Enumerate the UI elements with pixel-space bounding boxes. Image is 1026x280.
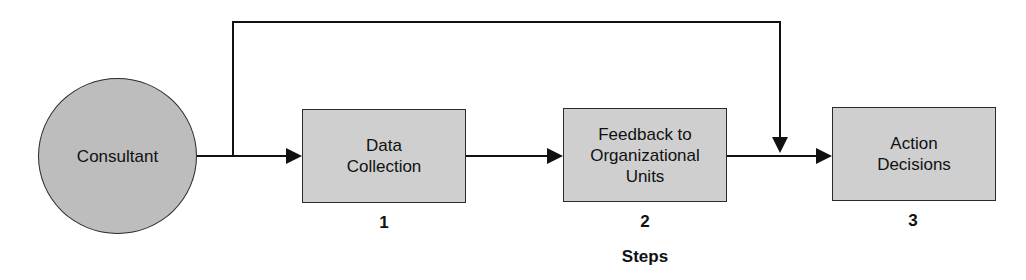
arrowhead-icon <box>816 148 832 164</box>
step-label-line: Units <box>590 166 700 187</box>
step-label-line: Data <box>347 135 422 156</box>
arrowhead-icon <box>547 148 563 164</box>
step-label-line: Action <box>877 133 951 154</box>
step-feedback: Feedback to Organizational Units <box>563 108 727 202</box>
step-number-1: 1 <box>354 213 414 233</box>
step-label-line: Decisions <box>877 154 951 175</box>
steps-axis-label: Steps <box>605 247 685 267</box>
step-action-decisions: Action Decisions <box>832 107 996 201</box>
consultant-node: Consultant <box>38 78 197 234</box>
arrowhead-icon <box>286 148 302 164</box>
step-label-line: Feedback to <box>590 124 700 145</box>
step-label-line: Collection <box>347 156 422 177</box>
step-number-2: 2 <box>615 212 675 232</box>
step-label-line: Organizational <box>590 145 700 166</box>
step-data-collection: Data Collection <box>302 109 466 203</box>
step-number-3: 3 <box>883 211 943 231</box>
arrowhead-down-icon <box>772 137 788 153</box>
consultant-label: Consultant <box>77 146 158 167</box>
